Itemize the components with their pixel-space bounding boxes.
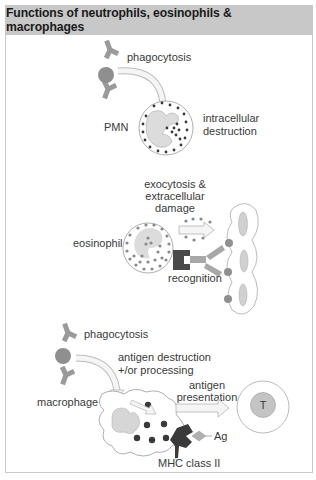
immune-cell-diagram: phagocytosis PMN intracellular destructi… — [0, 0, 316, 480]
macrophage-panel: phagocytosis antigen destruction +/or pr… — [37, 321, 289, 469]
opsonized-particle-icon-2 — [55, 321, 78, 387]
label-destruction: destruction — [203, 125, 257, 137]
parasite-icon — [224, 203, 258, 314]
label-eosinophil: eosinophil — [73, 237, 123, 249]
label-damage: damage — [155, 202, 195, 214]
label-ag: Ag — [214, 430, 227, 442]
label-extracellular: extracellular — [145, 190, 205, 202]
label-intracellular: intracellular — [203, 112, 260, 124]
macrophage-cell-icon — [99, 389, 185, 456]
label-pmn: PMN — [104, 121, 129, 133]
label-phagocytosis-1: phagocytosis — [127, 51, 192, 63]
label-antigen: antigen — [189, 379, 225, 391]
eosinophil-cell-icon — [123, 223, 173, 273]
label-t: T — [260, 399, 267, 411]
label-macrophage: macrophage — [37, 396, 98, 408]
label-phagocytosis-2: phagocytosis — [84, 328, 149, 340]
opsonized-particle-icon — [97, 38, 120, 101]
label-recognition: recognition — [168, 272, 222, 284]
fc-receptor-icon — [173, 250, 190, 270]
exocytosis-arrow-icon — [179, 222, 214, 238]
antigen-icon — [192, 431, 206, 441]
label-mhc-class-ii: MHC class II — [158, 457, 220, 469]
label-exocytosis: exocytosis & — [144, 178, 206, 190]
t-cell-icon: T — [237, 381, 289, 433]
label-presentation: presentation — [177, 391, 238, 403]
label-antigen-destruction: antigen destruction — [118, 351, 211, 363]
eosinophil-panel: exocytosis & extracellular damage eosino… — [73, 178, 258, 314]
pmn-cell-icon — [139, 101, 193, 155]
neutrophil-panel: phagocytosis PMN intracellular destructi… — [97, 38, 260, 155]
label-processing: +/or processing — [118, 364, 194, 376]
